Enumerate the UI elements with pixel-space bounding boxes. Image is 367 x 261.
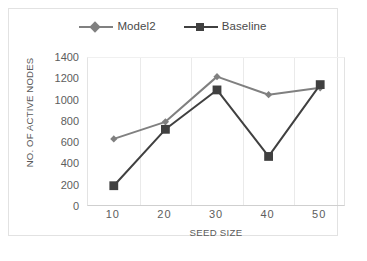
x-axis-title: SEED SIZE bbox=[87, 227, 345, 238]
x-axis-tick-label: 10 bbox=[106, 208, 120, 220]
data-point-marker bbox=[161, 125, 170, 134]
y-axis-title: NO. OF ACTIVE NODES bbox=[22, 47, 38, 177]
chart-frame: Model2 Baseline NO. OF ACTIVE NODES 0200… bbox=[8, 8, 338, 236]
legend-label-model2: Model2 bbox=[117, 20, 155, 32]
data-point-marker bbox=[109, 181, 118, 190]
y-axis-tick-label: 200 bbox=[61, 179, 79, 191]
x-axis-tick-labels: 1020304050 bbox=[87, 208, 345, 224]
y-axis-tick-labels: 0200400600800100012001400 bbox=[41, 57, 83, 206]
data-point-marker bbox=[213, 86, 222, 95]
data-point-marker bbox=[110, 135, 117, 142]
y-axis-tick-label: 1400 bbox=[55, 51, 79, 63]
chart-screenshot: Model2 Baseline NO. OF ACTIVE NODES 0200… bbox=[0, 0, 367, 261]
x-axis-tick-label: 30 bbox=[209, 208, 223, 220]
y-axis-title-text: NO. OF ACTIVE NODES bbox=[25, 57, 36, 166]
x-axis-tick-label: 20 bbox=[157, 208, 171, 220]
legend-marker-square-icon bbox=[184, 21, 218, 32]
legend-entry-model2: Model2 bbox=[79, 20, 155, 32]
y-axis-tick-label: 0 bbox=[73, 200, 79, 212]
legend-entry-baseline: Baseline bbox=[184, 20, 267, 32]
y-axis-tick-label: 600 bbox=[61, 136, 79, 148]
y-axis-tick-label: 800 bbox=[61, 115, 79, 127]
data-point-marker bbox=[265, 91, 272, 98]
series-canvas bbox=[88, 58, 346, 207]
data-point-marker bbox=[316, 80, 325, 89]
x-axis-tick-label: 50 bbox=[312, 208, 326, 220]
x-axis-tick-label: 40 bbox=[260, 208, 274, 220]
y-axis-tick-label: 1200 bbox=[55, 72, 79, 84]
plot-area bbox=[87, 57, 345, 206]
legend-marker-diamond-icon bbox=[79, 21, 113, 32]
chart-legend: Model2 Baseline bbox=[9, 20, 337, 32]
series-line-baseline bbox=[114, 85, 320, 186]
data-point-marker bbox=[264, 152, 273, 161]
y-axis-tick-label: 400 bbox=[61, 157, 79, 169]
legend-label-baseline: Baseline bbox=[222, 20, 267, 32]
y-axis-tick-label: 1000 bbox=[55, 94, 79, 106]
